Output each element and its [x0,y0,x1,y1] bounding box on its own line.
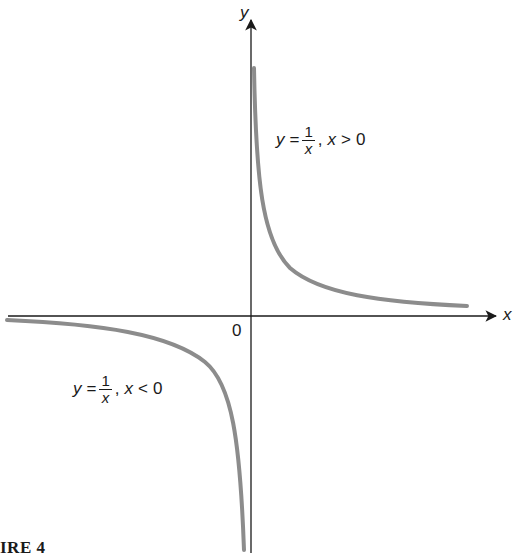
figure-caption: IRE 4 [0,538,45,555]
label-lhs: y [276,130,285,150]
label-equals: = [87,379,97,399]
label-lhs: y [73,379,82,399]
fraction-denominator: x [303,141,315,157]
label-condition-op: < [138,379,148,399]
curve-positive-branch [254,68,467,306]
label-condition-val: 0 [153,379,162,399]
fraction: 1 x [99,373,111,406]
label-condition-var: x [125,379,134,399]
label-separator: , [318,130,323,150]
fraction: 1 x [302,124,314,157]
y-axis-label: y [240,4,249,21]
x-axis-label: x [503,306,512,323]
fraction-numerator: 1 [99,373,111,390]
label-positive-branch: y = 1 x , x > 0 [276,124,365,157]
label-condition-val: 0 [356,130,365,150]
fraction-numerator: 1 [302,124,314,141]
fraction-denominator: x [100,390,112,406]
label-negative-branch: y = 1 x , x < 0 [73,373,162,406]
origin-label: 0 [232,322,241,339]
label-separator: , [115,379,120,399]
label-equals: = [290,130,300,150]
curve-negative-branch [7,320,244,550]
hyperbola-plot [0,0,516,555]
label-condition-var: x [328,130,337,150]
label-condition-op: > [341,130,351,150]
